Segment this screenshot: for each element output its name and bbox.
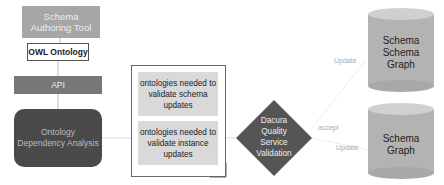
sg-line1: Schema xyxy=(383,133,420,145)
api-node: API xyxy=(14,76,102,94)
schema-schema-graph-node: Schema Schema Graph xyxy=(368,28,434,78)
ssg-line1: Schema xyxy=(383,35,420,47)
accept-label: accept xyxy=(318,124,339,131)
update-label-bottom: Update xyxy=(336,144,359,151)
owl-ontology-node: OWL Ontology xyxy=(27,43,89,61)
dependency-line2: Dependency Analysis xyxy=(17,138,98,149)
validation-line4: Validation xyxy=(256,148,291,159)
ssg-line2: Schema xyxy=(383,47,420,59)
dependency-line1: Ontology xyxy=(17,127,98,138)
validation-line1: Dacura xyxy=(256,115,291,126)
instance-ontologies-box: ontologies needed to validate instance u… xyxy=(138,121,218,165)
validation-line2: Quality xyxy=(256,126,291,137)
ontology-dependency-analysis-node: Ontology Dependency Analysis xyxy=(14,109,102,167)
sg-line2: Graph xyxy=(383,145,420,157)
schema-authoring-tool-node: Schema Authoring Tool xyxy=(22,6,100,38)
authoring-line1: Schema xyxy=(31,11,92,22)
validation-line3: Service xyxy=(256,137,291,148)
update-label-top: Update xyxy=(334,57,357,64)
ssg-line3: Graph xyxy=(383,59,420,71)
schema-graph-node: Schema Graph xyxy=(368,125,434,165)
dacura-validation-node: Dacura Quality Service Validation xyxy=(244,112,304,162)
schema-ontologies-box: ontologies needed to validate schema upd… xyxy=(138,72,218,116)
authoring-line2: Authoring Tool xyxy=(31,22,92,33)
